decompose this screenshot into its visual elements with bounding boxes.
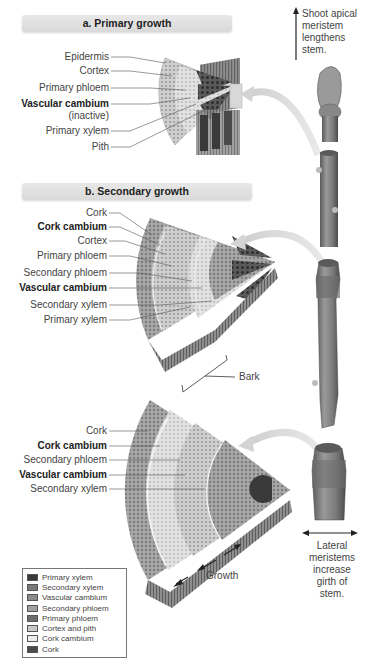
legend-item: Cork cambium: [27, 634, 122, 644]
label-inactive: (inactive): [68, 110, 109, 122]
label-cork: Cork: [86, 207, 107, 219]
legend-label: Cortex and pith: [42, 624, 96, 633]
curved-arrow-a: [248, 92, 318, 155]
legend-item: Primary phloem: [27, 613, 122, 623]
apical-note-line: meristem: [302, 20, 357, 32]
label-cork: Cork: [86, 425, 107, 437]
legend-label: Secondary phloem: [42, 604, 109, 613]
label-vascular-cambium: Vascular cambium: [19, 469, 107, 481]
label-cortex: Cortex: [80, 65, 109, 77]
label-vascular-cambium: Vascular cambium: [19, 282, 107, 294]
label-secondary-phloem: Secondary phloem: [24, 267, 107, 279]
legend-swatch-icon: [27, 594, 38, 601]
secondary-growth-wedge: [136, 218, 278, 372]
legend: Primary xylemSecondary xylemVascular cam…: [22, 568, 127, 658]
lateral-note-line: increase: [304, 564, 360, 576]
lateral-note-line: stem.: [304, 588, 360, 600]
label-primary-xylem: Primary xylem: [44, 314, 107, 326]
label-epidermis: Epidermis: [65, 51, 109, 63]
lateral-note-line: Lateral: [304, 540, 360, 552]
label-cork-cambium: Cork cambium: [38, 221, 107, 233]
legend-swatch-icon: [27, 574, 38, 581]
lateral-meristem-note: Lateral meristems increase girth of stem…: [304, 540, 360, 600]
primary-growth-wedge: [159, 58, 242, 155]
legend-label: Primary xylem: [42, 573, 93, 582]
legend-swatch-icon: [27, 615, 38, 622]
bottom-stem: [312, 443, 346, 520]
label-secondary-xylem: Secondary xylem: [30, 299, 107, 311]
label-secondary-xylem: Secondary xylem: [30, 483, 107, 495]
legend-label: Cork cambium: [42, 634, 94, 643]
legend-item: Secondary phloem: [27, 603, 122, 613]
legend-swatch-icon: [27, 635, 38, 642]
legend-item: Secondary xylem: [27, 582, 122, 592]
legend-swatch-icon: [27, 605, 38, 612]
lateral-note-line: girth of: [304, 576, 360, 588]
label-growth: Growth: [206, 570, 238, 582]
lateral-note-line: meristems: [304, 552, 360, 564]
legend-swatch-icon: [27, 625, 38, 632]
middle-stem: [312, 259, 340, 428]
label-secondary-phloem: Secondary phloem: [24, 454, 107, 466]
label-cortex: Cortex: [78, 235, 107, 247]
secondary-growth-title: b. Secondary growth: [22, 183, 252, 200]
label-cork-cambium: Cork cambium: [38, 440, 107, 452]
label-primary-phloem: Primary phloem: [37, 250, 107, 262]
legend-item: Cortex and pith: [27, 623, 122, 633]
apical-note-line: Shoot apical: [302, 8, 357, 20]
bark-bracket: [182, 355, 235, 392]
apical-note-line: stem.: [302, 44, 357, 56]
legend-item: Vascular cambium: [27, 593, 122, 603]
label-pith: Pith: [92, 141, 109, 153]
label-primary-phloem: Primary phloem: [39, 82, 109, 94]
legend-label: Secondary xylem: [42, 583, 103, 592]
label-bark: Bark: [239, 371, 260, 383]
legend-item: Primary xylem: [27, 572, 122, 582]
label-primary-xylem: Primary xylem: [46, 125, 109, 137]
apical-note-line: lengthens: [302, 32, 357, 44]
primary-growth-title: a. Primary growth: [22, 15, 232, 32]
apical-meristem-note: Shoot apical meristem lengthens stem.: [302, 8, 357, 56]
legend-swatch-icon: [27, 584, 38, 591]
label-vascular-cambium: Vascular cambium: [21, 98, 109, 110]
legend-label: Vascular cambium: [42, 593, 107, 602]
legend-item: Cork: [27, 644, 122, 654]
legend-swatch-icon: [27, 646, 38, 653]
legend-label: Cork: [42, 645, 59, 654]
shoot-tip: [316, 67, 341, 248]
legend-label: Primary phloem: [42, 614, 98, 623]
